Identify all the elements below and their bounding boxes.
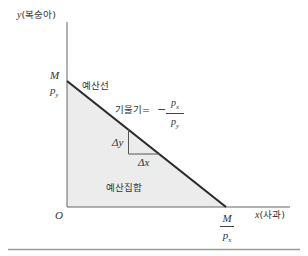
y-intercept-numerator: M <box>50 70 59 81</box>
delta-y-label: Δy <box>112 137 123 148</box>
origin-label: O <box>55 210 63 221</box>
slope-label: 기울기= <box>115 105 150 115</box>
x-intercept-denominator: px <box>223 229 232 244</box>
fraction-bar <box>220 226 234 227</box>
slope-sign: − <box>157 104 166 115</box>
fraction-bar <box>166 113 184 114</box>
slope-numerator: px <box>171 97 179 111</box>
slope-denominator: py <box>171 116 179 130</box>
x-axis-label: x(사과) <box>255 210 285 220</box>
x-intercept-numerator: M <box>222 212 231 224</box>
budget-line-label: 예산선 <box>82 81 109 91</box>
delta-x-label: Δx <box>138 157 149 168</box>
y-intercept-sub: y <box>56 91 59 99</box>
y-intercept-denominator: py <box>50 85 59 99</box>
x-axis-text: (사과) <box>259 209 284 220</box>
slope-fraction: px py <box>166 97 184 130</box>
y-axis-label: y(복숭아) <box>17 10 56 20</box>
y-axis-text: (복숭아) <box>21 9 55 20</box>
x-intercept-fraction: M px <box>220 212 234 244</box>
budget-set-label: 예산집합 <box>106 183 142 193</box>
